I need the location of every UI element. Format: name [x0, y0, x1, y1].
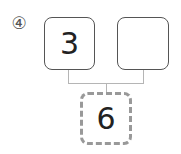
connector-left-vertical	[68, 70, 69, 84]
left-part-box: 3	[44, 17, 95, 70]
left-part-value: 3	[60, 26, 79, 61]
whole-value: 6	[96, 101, 115, 136]
connector-right-vertical	[143, 70, 144, 84]
right-part-box[interactable]	[117, 17, 169, 70]
problem-number-label: ④	[10, 14, 28, 32]
whole-box: 6	[80, 92, 132, 145]
